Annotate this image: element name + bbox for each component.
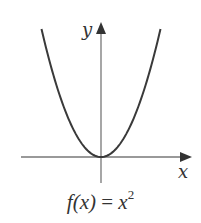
y-axis-arrow-icon bbox=[96, 22, 106, 34]
formula-exponent: 2 bbox=[128, 187, 135, 202]
formula-equals: = bbox=[101, 190, 113, 214]
formula-base: x bbox=[118, 190, 127, 214]
formula-fx: f(x) bbox=[67, 190, 96, 214]
x-axis-label: x bbox=[178, 161, 188, 182]
function-caption: f(x) = x2 bbox=[0, 189, 201, 215]
y-axis-label: y bbox=[81, 19, 93, 40]
